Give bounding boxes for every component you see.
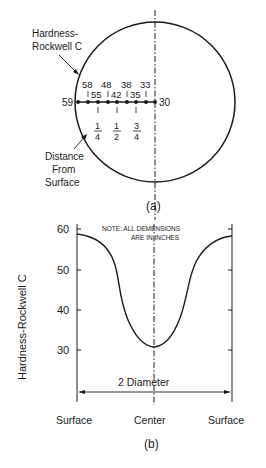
hardness-label-line2: Rockwell C [32,41,82,52]
x-label-surface-right: Surface [208,414,244,426]
arrowhead-right-icon [224,390,231,394]
svg-text:3: 3 [134,121,139,131]
fraction-quarter: 1 4 [94,121,102,142]
hardness-label-line1: Hardness- [32,28,78,39]
distance-label-line3: Surface [45,177,80,188]
fraction-three-quarters: 3 4 [133,121,141,142]
mid-value-1: 55 [91,89,102,100]
y-tick-labels: 60 50 40 30 [57,223,69,356]
distance-label-line2: From [52,164,75,175]
svg-text:50: 50 [57,264,69,276]
mid-value-3: 35 [130,89,141,100]
figure-canvas: 59 30 58 48 38 33 55 42 35 1 4 1 2 3 4 [0,0,266,468]
svg-text:1: 1 [114,121,119,131]
edge-right-value: 30 [159,97,171,108]
distance-label-line1: Distance [45,151,84,162]
x-label-surface-left: Surface [56,414,92,426]
note-line2: ARE IN INCHES [131,234,180,241]
top-value-4: 33 [140,79,151,90]
svg-text:1: 1 [95,121,100,131]
edge-left-value: 59 [62,97,74,108]
svg-text:2: 2 [114,132,119,142]
figure-a: 59 30 58 48 38 33 55 42 35 1 4 1 2 3 4 [32,10,235,220]
note-line1: NOTE: ALL DEMENSIONS [102,225,181,232]
svg-text:40: 40 [57,304,69,316]
figure-b: 60 50 40 30 Hardness-Rockwell C NOTE: AL… [16,223,244,451]
caption-b: (b) [144,437,159,451]
measurement-points [76,100,157,104]
caption-a: (a) [146,199,161,213]
svg-text:4: 4 [134,132,139,142]
x-label-center: Center [134,414,166,426]
top-value-2: 48 [101,79,112,90]
svg-text:60: 60 [57,223,69,235]
svg-text:4: 4 [95,132,100,142]
svg-text:30: 30 [57,344,69,356]
dimension-label: 2 Diameter [118,376,170,388]
arrowhead-left-icon [78,390,85,394]
y-axis-label: Hardness-Rockwell C [16,274,28,380]
mid-value-2: 42 [111,89,122,100]
fraction-half: 1 2 [113,121,121,142]
